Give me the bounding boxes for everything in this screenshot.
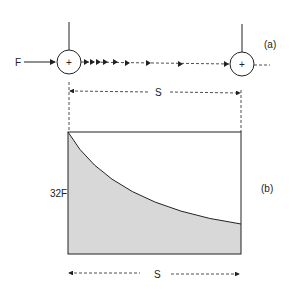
dimension-line-right bbox=[170, 92, 240, 93]
part-a: F + + (a) S bbox=[15, 22, 276, 132]
part-b: 32F (b) S bbox=[50, 132, 273, 280]
force-label: F bbox=[15, 57, 21, 68]
distance-label-a: S bbox=[155, 87, 162, 98]
part-b-label: (b) bbox=[261, 183, 273, 194]
distance-label-b: S bbox=[154, 269, 161, 280]
y-value-label: 32F bbox=[50, 188, 67, 199]
area-under-curve bbox=[68, 132, 241, 254]
dimension-line-left bbox=[70, 91, 150, 92]
figure-canvas: F + + (a) S 32F (b) bbox=[0, 0, 292, 289]
start-center-symbol: + bbox=[66, 57, 72, 68]
end-center-symbol: + bbox=[239, 59, 245, 70]
part-a-label: (a) bbox=[264, 39, 276, 50]
